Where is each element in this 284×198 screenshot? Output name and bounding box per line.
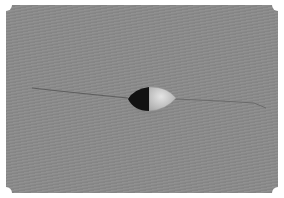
fiber-right bbox=[174, 99, 266, 108]
fiber-left bbox=[32, 88, 128, 98]
micrograph-scene bbox=[6, 5, 278, 193]
micrograph-frame bbox=[6, 5, 278, 193]
